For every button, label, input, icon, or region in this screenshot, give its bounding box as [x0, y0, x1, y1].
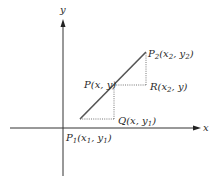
label-r: R(x2, y): [149, 81, 188, 94]
diagram-canvas: y x P2(x2, y2) P(x, y) R(x2, y) Q(x, y1)…: [0, 0, 214, 184]
label-p1: P1(x1, y1): [65, 132, 112, 145]
label-p2: P2(x2, y2): [147, 48, 194, 61]
x-axis-arrow-icon: [193, 126, 201, 131]
label-q: Q(x, y1): [118, 115, 156, 128]
y-axis-label: y: [59, 4, 66, 15]
label-p: P(x, y): [83, 79, 116, 90]
y-axis-arrow-icon: [61, 19, 66, 27]
x-axis-label: x: [203, 122, 209, 133]
